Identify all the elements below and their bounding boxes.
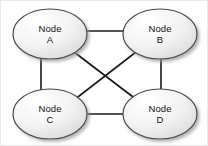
node-d[interactable] [123,89,197,139]
node-a[interactable] [13,9,87,59]
node-graph-diagram: Node ANode BNode CNode D [0,0,208,146]
node-b[interactable] [123,9,197,59]
node-c[interactable] [13,89,87,139]
graph-canvas [1,1,208,146]
